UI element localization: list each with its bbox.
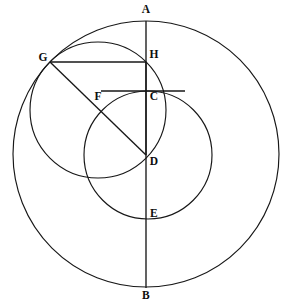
point-H-label: H — [149, 49, 158, 61]
point-A-label: A — [142, 4, 151, 16]
point-D-label: D — [150, 156, 159, 168]
point-B-label: B — [142, 290, 150, 302]
medium-circle — [84, 91, 212, 219]
geometry-figure: AHGFCDEB — [0, 0, 285, 306]
geometry-canvas — [0, 0, 285, 306]
point-F-label: F — [94, 91, 101, 103]
point-G-label: G — [38, 52, 47, 64]
point-C-label: C — [150, 91, 159, 103]
point-E-label: E — [150, 208, 158, 220]
segment-GD — [50, 62, 146, 155]
